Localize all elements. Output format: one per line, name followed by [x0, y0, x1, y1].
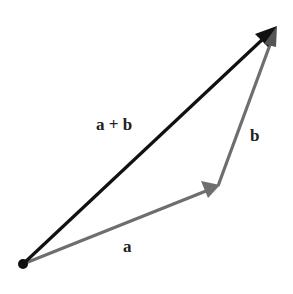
origin-point: [18, 259, 28, 269]
vector-diagram: [0, 0, 293, 294]
label-a: a: [123, 238, 132, 255]
vector-a-line: [23, 191, 206, 264]
label-a-plus-b: a + b: [96, 116, 132, 133]
vector-sum-line: [23, 38, 264, 264]
vector-b-line: [218, 42, 271, 186]
vector-a-arrowhead: [201, 181, 220, 198]
label-b: b: [250, 127, 259, 144]
